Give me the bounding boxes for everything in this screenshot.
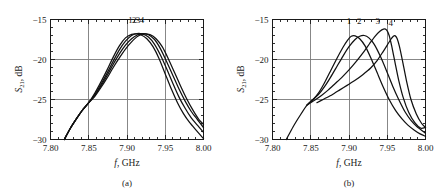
- curve-label-1: 1: [347, 16, 352, 26]
- panel-b-x-axis-title: f, GHz: [336, 158, 361, 168]
- curve-label-4: 4: [140, 15, 145, 25]
- panel-a-curve-labels: 1234: [128, 15, 144, 25]
- panel-a-svg: 7.807.857.907.958.00 −15−20−25−30 1234 f…: [0, 0, 222, 193]
- y-tick-label: −15: [254, 15, 269, 25]
- x-tick-label: 8.00: [196, 143, 212, 153]
- panel-b-caption: (b): [344, 178, 355, 188]
- panel-a: 7.807.857.907.958.00 −15−20−25−30 1234 f…: [0, 0, 222, 193]
- curve-label-3: 3: [375, 16, 380, 26]
- data-curve-3: [64, 34, 203, 140]
- data-curve-1: [64, 34, 203, 140]
- curve-label-2: 2: [357, 16, 362, 26]
- x-tick-label: 7.85: [81, 143, 97, 153]
- panel-b-curves: [286, 29, 425, 139]
- panel-a-x-axis-title: f, GHz: [114, 158, 139, 168]
- panel-a-gridlines: [51, 20, 204, 140]
- panel-a-x-tick-labels: 7.807.857.907.958.00: [43, 143, 212, 153]
- x-tick-label: 7.90: [119, 143, 135, 153]
- y-tick-label: −20: [32, 55, 47, 65]
- panel-b-x-tick-labels: 7.807.857.907.958.00: [265, 143, 434, 153]
- x-tick-label: 7.95: [157, 143, 173, 153]
- panel-b: 7.807.857.907.958.00 −15−20−25−30 1234 f…: [222, 0, 444, 193]
- panel-b-curve-labels: 1234: [347, 16, 394, 28]
- y-tick-label: −20: [254, 55, 269, 65]
- panel-b-svg: 7.807.857.907.958.00 −15−20−25−30 1234 f…: [222, 0, 444, 193]
- data-curve-2: [64, 33, 203, 139]
- panel-a-y-axis-title: S21, dB: [14, 65, 25, 92]
- panel-a-y-tick-labels: −15−20−25−30: [32, 15, 47, 145]
- x-tick-label: 7.85: [303, 143, 319, 153]
- data-curve-4: [64, 34, 203, 140]
- y-tick-label: −25: [32, 95, 47, 105]
- curve-label-4: 4: [388, 18, 393, 28]
- data-curve-3: [307, 29, 426, 128]
- y-tick-label: −30: [32, 135, 47, 145]
- x-tick-label: 8.00: [418, 143, 434, 153]
- x-tick-label: 7.90: [341, 143, 357, 153]
- panel-a-caption: (a): [122, 178, 132, 188]
- y-tick-label: −25: [254, 95, 269, 105]
- panel-b-y-axis-title: S21, dB: [236, 65, 247, 92]
- y-tick-label: −15: [32, 15, 47, 25]
- panel-b-y-tick-labels: −15−20−25−30: [254, 15, 269, 145]
- y-tick-label: −30: [254, 135, 269, 145]
- panel-a-curves: [64, 33, 203, 139]
- x-tick-label: 7.95: [379, 143, 395, 153]
- data-curve-1: [286, 36, 425, 140]
- figure-container: 7.807.857.907.958.00 −15−20−25−30 1234 f…: [0, 0, 444, 193]
